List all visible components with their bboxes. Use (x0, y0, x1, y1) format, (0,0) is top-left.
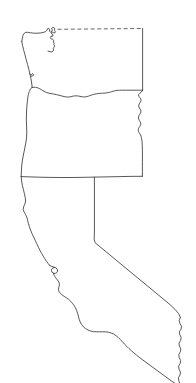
california-north-coast (21, 177, 49, 266)
california-san-francisco-bay (50, 265, 58, 273)
california-nevada-border (94, 177, 180, 317)
west-coast-outline-map (0, 0, 196, 383)
oregon-idaho-border-snake-river (138, 90, 142, 176)
california-central-coast (53, 273, 174, 383)
oregon-california-border (21, 176, 142, 177)
california-arizona-border-colorado-river (178, 317, 181, 383)
washington-pacific-coast-south (22, 41, 32, 87)
washington-oregon-border-columbia-river (32, 87, 143, 97)
oregon-pacific-coast (21, 87, 32, 176)
canada-usa-border-line (58, 29, 143, 30)
washington-coast-and-puget-sound (22, 28, 56, 52)
map-canvas: West Coast States Outline (0, 0, 196, 383)
